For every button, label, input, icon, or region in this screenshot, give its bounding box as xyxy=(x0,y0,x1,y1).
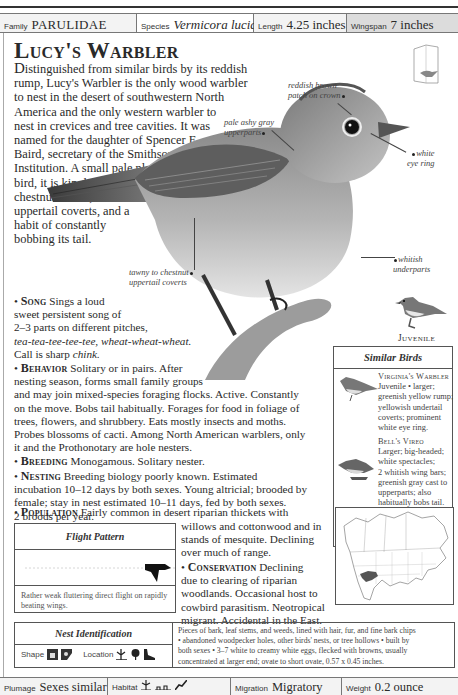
population-section: • Population Fairly common in desert rip… xyxy=(14,506,288,519)
callout-upperparts: pale ashy gray upperparts xyxy=(224,117,274,137)
top-rule xyxy=(0,6,458,8)
nest-identification-panel: Nest Identification Shape Location Piece… xyxy=(14,622,455,668)
cliff-location-icon xyxy=(144,649,155,660)
similar-bird-virginias-warbler: Virginia's Warbler Juvenile • larger; gr… xyxy=(378,372,454,433)
wingspan-value: 7 inches xyxy=(391,17,434,33)
flight-pattern-diagram xyxy=(15,550,175,586)
desert-habitat-icon xyxy=(155,682,171,690)
similar-birds-title: Similar Birds xyxy=(334,347,452,369)
breeding-section: • Breeding Monogamous. Solitary nester. xyxy=(14,455,205,468)
flight-pattern-title: Flight Pattern xyxy=(15,524,175,550)
leader-line xyxy=(194,218,195,270)
crevice-nest-shape-icon xyxy=(61,649,72,660)
species-value: Vermicora luciae xyxy=(173,17,262,33)
weight-cell: Weight 0.2 ounce xyxy=(342,678,458,695)
north-america-map-graphic xyxy=(336,508,454,605)
nest-description: Pieces of bark, leaf stems, and weeds, l… xyxy=(173,623,454,667)
tree-location-icon xyxy=(116,649,127,660)
footer-bar: Plumage Sexes similar Habitat Migration … xyxy=(0,677,458,695)
length-cell: Length 4.25 inches xyxy=(254,14,347,32)
similar-bird-bells-vireo: Bell's Vireo Larger; big-headed; white s… xyxy=(378,437,454,508)
callout-coverts: tawny to chestnut uppertail coverts xyxy=(129,267,194,287)
range-map xyxy=(335,507,454,605)
shrub-location-icon xyxy=(130,649,141,660)
bells-vireo-illustration xyxy=(338,455,378,485)
species-cell: Species Vermicora luciae xyxy=(137,14,254,32)
behavior-section: • Behavior Solitary or in pairs. After n… xyxy=(14,362,305,454)
header-bar: Family PARULIDAE Species Vermicora lucia… xyxy=(0,13,458,33)
flight-pattern-panel: Flight Pattern Rather weak fluttering di… xyxy=(14,523,176,613)
length-value: 4.25 inches xyxy=(286,17,345,33)
plumage-cell: Plumage Sexes similar xyxy=(0,678,108,695)
virginias-warbler-illustration xyxy=(338,373,378,403)
callout-eye-ring: white eye ring xyxy=(407,148,435,168)
leader-line xyxy=(361,257,395,258)
migration-cell: Migration Migratory xyxy=(231,678,342,695)
weight-value: 0.2 ounce xyxy=(375,680,424,695)
wingspan-cell: Wingspan 7 inches xyxy=(347,14,458,32)
song-section: • Song Sings a loud sweet persistent son… xyxy=(14,295,191,361)
tree-habitat-icon xyxy=(141,680,151,690)
flight-pattern-description: Rather weak fluttering direct flight on … xyxy=(15,586,175,616)
nest-identification-title: Nest Identification xyxy=(15,623,172,645)
conservation-section: • Conservation Declining due to clearing… xyxy=(181,561,325,627)
flying-bird-icon xyxy=(145,564,171,582)
habitat-cell: Habitat xyxy=(108,678,231,695)
scrub-habitat-icon xyxy=(175,680,187,690)
cavity-nest-shape-icon xyxy=(47,649,58,660)
family-value: PARULIDAE xyxy=(32,17,107,33)
family-cell: Family PARULIDAE xyxy=(0,14,137,32)
page-margin-rule xyxy=(3,33,4,677)
plumage-value: Sexes similar xyxy=(40,680,107,695)
juvenile-label: Juvenile xyxy=(398,333,435,343)
callout-underparts: whitish underparts xyxy=(393,254,430,274)
callout-crown: reddish brown patch on crown xyxy=(288,80,346,100)
juvenile-bird-illustration xyxy=(395,292,447,330)
migration-value: Migratory xyxy=(272,680,323,695)
population-continued: willows and cottonwood and in stands of … xyxy=(181,520,321,560)
